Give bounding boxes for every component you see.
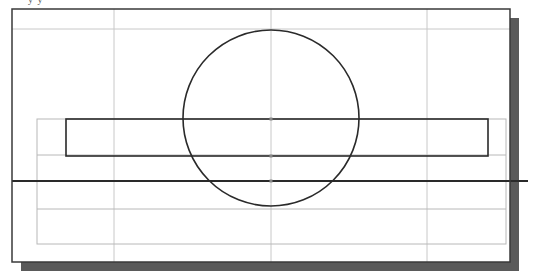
drawing-area[interactable] [12,9,510,262]
snap-point-marker [270,118,273,121]
drawing-viewport: y y [0,0,541,276]
snap-point-marker [270,155,273,158]
snap-point-marker [270,180,273,183]
cad-drawing [0,0,541,276]
